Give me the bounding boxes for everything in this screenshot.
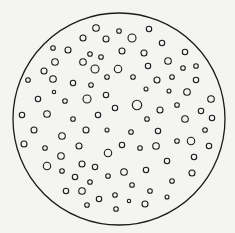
particle-circle xyxy=(114,207,119,212)
particle-circle xyxy=(93,25,100,32)
particle-circle xyxy=(80,35,86,41)
particle-circle xyxy=(159,40,164,45)
particle-circle xyxy=(130,183,135,188)
particle-circle xyxy=(146,26,151,31)
particle-circle xyxy=(19,112,24,117)
particle-diagram xyxy=(0,0,235,233)
particle-circle xyxy=(154,77,160,83)
particle-circle xyxy=(191,154,196,159)
particle-circle xyxy=(89,83,94,88)
particle-circle xyxy=(141,50,147,56)
particle-circle xyxy=(155,128,160,133)
particle-circle xyxy=(113,193,118,198)
particle-circle xyxy=(131,75,136,80)
particle-circle xyxy=(203,128,208,133)
particle-circle xyxy=(145,117,150,122)
particle-circle xyxy=(58,153,65,160)
particle-circle xyxy=(165,195,169,199)
particle-circle xyxy=(138,146,143,151)
particle-circle xyxy=(114,65,121,72)
particle-circle xyxy=(92,164,97,169)
particle-circle xyxy=(129,130,134,135)
particle-circle xyxy=(128,34,136,42)
particle-circle xyxy=(71,117,76,122)
particle-circle xyxy=(181,66,186,71)
particle-circle xyxy=(43,146,48,151)
particle-circle xyxy=(88,52,93,57)
particle-circle xyxy=(103,36,109,42)
particle-circle xyxy=(148,189,153,194)
particle-circle xyxy=(117,29,122,34)
particle-circle xyxy=(119,142,124,147)
particle-circle xyxy=(83,127,89,133)
particle-circle xyxy=(105,75,110,80)
particle-circle xyxy=(50,76,57,83)
particle-circle xyxy=(175,103,180,108)
particle-circle xyxy=(52,90,55,93)
particle-circle xyxy=(44,111,51,118)
particle-circle xyxy=(88,180,93,185)
particle-circle xyxy=(189,170,195,176)
particle-circle xyxy=(165,58,172,65)
particle-circle xyxy=(157,107,163,113)
particle-group xyxy=(19,25,214,212)
particle-circle xyxy=(21,141,27,147)
particle-circle xyxy=(105,128,109,132)
particle-circle xyxy=(99,55,104,60)
particle-circle xyxy=(106,174,111,179)
particle-circle xyxy=(208,96,215,103)
particle-circle xyxy=(167,89,171,93)
particle-circle xyxy=(164,158,169,163)
particle-circle xyxy=(175,139,180,144)
particle-circle xyxy=(43,162,50,169)
particle-circle xyxy=(95,112,100,117)
particle-circle xyxy=(206,143,211,148)
particle-circle xyxy=(182,49,187,54)
outer-boundary-circle xyxy=(13,13,225,225)
particle-circle xyxy=(63,188,68,193)
particle-circle xyxy=(52,59,59,66)
particle-circle xyxy=(104,149,111,156)
particle-circle xyxy=(35,96,40,101)
particle-circle xyxy=(96,196,101,201)
particle-circle xyxy=(63,99,68,104)
particle-circle xyxy=(170,179,175,184)
particle-circle xyxy=(119,48,125,54)
particle-circle xyxy=(194,64,199,69)
particle-circle xyxy=(79,188,86,195)
particle-circle xyxy=(209,115,214,120)
particle-circle xyxy=(51,46,56,51)
particle-circle xyxy=(31,127,37,133)
particle-circle xyxy=(145,63,150,68)
particle-circle xyxy=(187,137,194,144)
particle-circle xyxy=(103,92,108,97)
particle-circle xyxy=(85,203,90,208)
particle-circle xyxy=(132,100,141,109)
particle-circle xyxy=(144,87,148,91)
particle-circle xyxy=(72,174,77,179)
particle-circle xyxy=(26,78,31,83)
particle-circle xyxy=(193,77,198,82)
particle-circle xyxy=(60,169,65,174)
particle-circle xyxy=(80,59,87,66)
diagram-svg xyxy=(0,0,235,233)
particle-circle xyxy=(70,80,75,85)
particle-circle xyxy=(112,105,117,110)
particle-circle xyxy=(153,143,160,150)
particle-circle xyxy=(170,75,175,80)
particle-circle xyxy=(142,201,148,207)
particle-circle xyxy=(41,68,47,74)
particle-circle xyxy=(198,108,203,113)
particle-circle xyxy=(143,167,148,172)
particle-circle xyxy=(91,65,99,73)
particle-circle xyxy=(76,143,82,149)
particle-circle xyxy=(127,199,130,202)
particle-circle xyxy=(65,47,71,53)
particle-circle xyxy=(79,161,85,167)
particle-circle xyxy=(59,133,66,140)
particle-circle xyxy=(121,169,128,176)
particle-circle xyxy=(184,89,191,96)
particle-circle xyxy=(83,95,91,103)
particle-circle xyxy=(182,116,189,123)
